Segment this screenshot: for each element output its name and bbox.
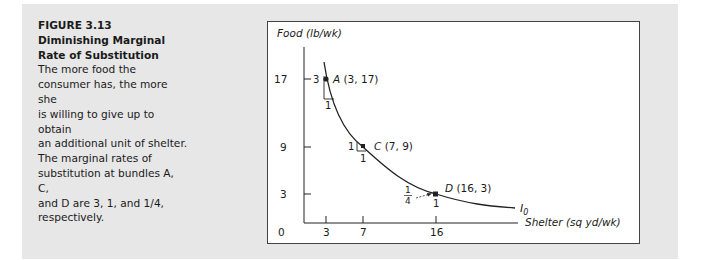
caption-line: and D are 3, 1, and 1/4,: [38, 196, 188, 211]
caption-line: respectively.: [38, 210, 188, 225]
figure-title-line-2: Rate of Substitution: [38, 48, 188, 63]
x-axis-label: Shelter (sq yd/wk): [525, 216, 621, 228]
y-axis-label: Food (lb/wk): [277, 27, 342, 39]
rise-label-d-numerator: 1: [405, 185, 411, 195]
caption-line: is willing to give up to obtain: [38, 107, 188, 137]
y-tick-label-3: 3: [280, 188, 287, 200]
run-label-c: 1: [360, 153, 366, 164]
indifference-curve-chart: Food (lb/wk) Shelter (sq yd/wk) 0 3 7 16…: [268, 22, 639, 243]
run-label-d: 1: [433, 198, 439, 209]
caption-line: consumer has, the more she: [38, 77, 188, 107]
point-d-marker: [433, 192, 438, 197]
figure-caption: FIGURE 3.13 Diminishing Marginal Rate of…: [38, 18, 188, 225]
rise-label-d-denominator: 4: [405, 196, 411, 206]
rise-label-a: 3: [313, 74, 319, 85]
caption-line: The more food the: [38, 62, 188, 77]
caption-line: an additional unit of shelter.: [38, 136, 188, 151]
curve-label-I: I0: [520, 202, 528, 217]
figure-number: FIGURE 3.13: [38, 18, 188, 33]
run-label-a: 1: [325, 100, 331, 111]
origin-label: 0: [278, 226, 285, 238]
point-a-label: A (3, 17): [332, 73, 378, 85]
y-tick-label-17: 17: [274, 73, 287, 85]
point-c-label: C (7, 9): [374, 140, 413, 152]
point-d-label: D (16, 3): [445, 182, 491, 194]
x-tick-label-3: 3: [323, 226, 330, 238]
x-tick-label-16: 16: [430, 226, 444, 238]
rise-label-c: 1: [348, 141, 354, 152]
caption-line: substitution at bundles A, C,: [38, 166, 188, 196]
point-a-marker: [323, 76, 328, 81]
x-tick-label-7: 7: [360, 226, 367, 238]
figure-title-line-1: Diminishing Marginal: [38, 33, 188, 48]
caption-line: The marginal rates of: [38, 151, 188, 166]
arrow-head-icon: [427, 193, 432, 197]
point-c-marker: [361, 144, 365, 148]
chart-frame: Food (lb/wk) Shelter (sq yd/wk) 0 3 7 16…: [267, 21, 640, 244]
y-tick-label-9: 9: [280, 141, 287, 153]
